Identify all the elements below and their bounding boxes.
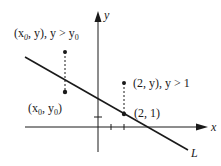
x-axis-label: x (210, 120, 217, 134)
point-x0-y0 (63, 90, 67, 94)
line-L-label: L (190, 146, 198, 160)
y-axis-label: y (103, 8, 110, 22)
point-x0-y (63, 50, 67, 54)
point-x0-y0-label: (x0, y0) (28, 101, 62, 117)
point-2-1-label: (2, 1) (134, 106, 160, 120)
coordinate-diagram: y x L (x0, y), y > y0 (x0, y0) (2, y), y… (0, 0, 221, 166)
y-axis-arrow-icon (95, 11, 102, 22)
x-axis-arrow-icon (196, 124, 208, 131)
point-x0-y-label: (x0, y), y > y0 (14, 26, 79, 42)
point-2-y-label: (2, y), y > 1 (133, 76, 190, 90)
point-2-1 (122, 112, 126, 116)
point-2-y (122, 81, 126, 85)
